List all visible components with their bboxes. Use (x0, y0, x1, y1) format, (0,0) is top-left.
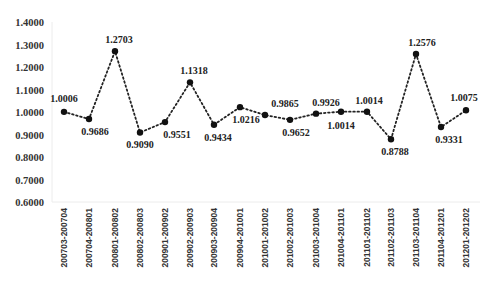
x-tick-label: 200703-200704 (59, 208, 69, 268)
series-line (64, 51, 466, 139)
x-tick-label: 200902-200903 (185, 208, 195, 268)
line-chart: 0.60000.70000.80000.90001.00001.10001.20… (0, 0, 484, 289)
data-point-marker (438, 124, 444, 130)
y-axis: 0.60000.70000.80000.90001.00001.10001.20… (15, 17, 44, 208)
data-point-marker (388, 136, 394, 142)
x-tick-label: 200802-200803 (135, 208, 145, 268)
y-tick-label: 1.3000 (15, 40, 44, 51)
data-label: 1.2703 (105, 34, 133, 45)
x-axis: 200703-200704200704-200801200801-2008022… (59, 208, 471, 268)
data-point-marker (211, 122, 217, 128)
x-tick-label: 200904-201001 (235, 208, 245, 268)
data-label: 0.9686 (81, 126, 109, 137)
x-tick-label: 201001-201002 (260, 208, 270, 268)
data-point-marker (287, 117, 293, 123)
data-point-marker (262, 112, 268, 118)
data-label: 0.9865 (271, 98, 299, 109)
y-tick-label: 1.4000 (15, 17, 44, 28)
data-label: 1.0014 (355, 95, 383, 106)
data-label: 1.0014 (327, 120, 355, 131)
x-tick-label: 200704-200801 (84, 208, 94, 268)
x-tick-label: 201201-201202 (461, 208, 471, 268)
y-tick-label: 1.0000 (15, 107, 44, 118)
data-point-marker (237, 104, 243, 110)
y-tick-label: 1.2000 (15, 62, 44, 73)
data-point-marker (162, 119, 168, 125)
data-point-marker (61, 109, 67, 115)
y-tick-label: 0.6000 (15, 197, 44, 208)
data-point-marker (463, 107, 469, 113)
data-label: 0.9652 (282, 127, 310, 138)
data-series (61, 48, 469, 142)
data-label: 1.0216 (232, 114, 260, 125)
data-point-marker (112, 48, 118, 54)
x-tick-label: 200901-200902 (160, 208, 170, 268)
x-tick-label: 201103-201104 (411, 208, 421, 267)
y-tick-label: 0.7000 (15, 175, 44, 186)
y-tick-label: 0.9000 (15, 130, 44, 141)
data-point-marker (313, 110, 319, 116)
x-tick-label: 201004-201101 (336, 208, 346, 267)
x-tick-label: 201102-201103 (386, 208, 396, 267)
x-tick-label: 201101-201102 (362, 208, 372, 267)
data-label: 0.9434 (204, 132, 232, 143)
data-label: 1.1318 (180, 65, 208, 76)
data-label: 1.0075 (450, 92, 478, 103)
data-label: 0.9331 (435, 134, 463, 145)
data-point-marker (364, 108, 370, 114)
x-tick-label: 200903-200904 (209, 208, 219, 268)
data-point-marker (137, 129, 143, 135)
data-label: 0.9551 (163, 129, 191, 140)
data-label: 1.2576 (408, 37, 436, 48)
data-label: 1.0006 (50, 93, 78, 104)
data-label: 0.8788 (381, 146, 409, 157)
y-tick-label: 1.1000 (15, 85, 44, 96)
y-tick-label: 0.8000 (15, 152, 44, 163)
data-point-marker (338, 108, 344, 114)
x-tick-label: 201003-201004 (311, 208, 321, 268)
x-tick-label: 201104-201201 (436, 208, 446, 267)
x-tick-label: 201002-201003 (285, 208, 295, 268)
x-tick-label: 200801-200802 (110, 208, 120, 268)
data-label: 0.9090 (126, 139, 154, 150)
data-point-marker (413, 51, 419, 57)
data-point-marker (187, 79, 193, 85)
data-label: 0.9926 (312, 97, 340, 108)
data-point-marker (86, 116, 92, 122)
